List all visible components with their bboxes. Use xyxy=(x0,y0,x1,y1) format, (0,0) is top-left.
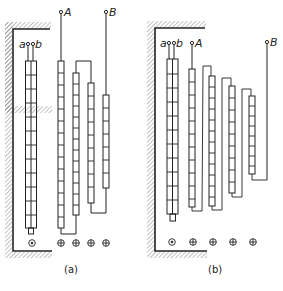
terminal-ab-a xyxy=(26,42,34,61)
plus-circle-icon xyxy=(210,239,217,246)
label-A-terminal-a: A xyxy=(63,6,72,19)
coil-4-b xyxy=(249,96,255,174)
core-wall-b xyxy=(147,21,207,258)
terminal-B-b xyxy=(265,40,268,180)
coil-1-b xyxy=(189,69,195,207)
connectors-a xyxy=(61,61,106,234)
coil-1-a xyxy=(58,61,64,228)
slot-markers-a xyxy=(29,240,110,247)
coil-3-b xyxy=(229,86,235,193)
coil-ab-a xyxy=(26,61,37,234)
coil-ab-b xyxy=(167,59,178,221)
terminal-A-a xyxy=(59,10,62,61)
terminal-ab-b xyxy=(167,41,175,59)
plus-circle-icon xyxy=(230,239,237,246)
coil-3-a xyxy=(88,83,94,203)
panel-b xyxy=(147,21,269,258)
slot-markers-b xyxy=(169,239,257,246)
plus-circle-icon xyxy=(58,240,65,247)
label-A-terminal-b: A xyxy=(194,37,203,50)
dot-circle-icon xyxy=(29,240,36,247)
coil-2-a xyxy=(73,73,79,215)
winding-diagram: a b A B (a) xyxy=(0,0,283,291)
caption-b: (b) xyxy=(208,264,222,275)
coil-4-a xyxy=(103,95,109,188)
dot-circle-icon xyxy=(169,239,176,246)
plus-circle-icon xyxy=(250,239,257,246)
plus-circle-icon xyxy=(73,240,80,247)
caption-a: (a) xyxy=(64,264,78,275)
label-a-terminal-a: a xyxy=(19,38,26,51)
terminal-A-b xyxy=(190,41,193,69)
plus-circle-icon xyxy=(103,240,110,247)
coil-2-b xyxy=(209,76,215,206)
label-B-terminal-a: B xyxy=(109,6,117,19)
label-b-terminal-b: b xyxy=(176,37,183,50)
plus-circle-icon xyxy=(190,239,197,246)
label-b-terminal-a: b xyxy=(35,38,42,51)
terminal-B-a xyxy=(104,10,107,95)
plus-circle-icon xyxy=(88,240,95,247)
label-B-terminal-b: B xyxy=(270,36,278,49)
label-a-terminal-b: a xyxy=(160,37,167,50)
